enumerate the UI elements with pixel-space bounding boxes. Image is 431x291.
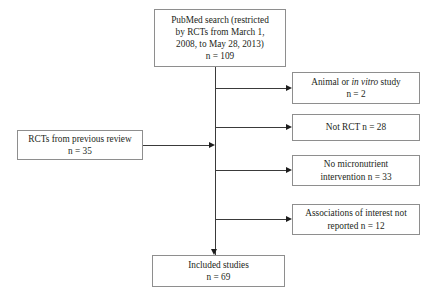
pubmed-search-line-1: PubMed search (restricted	[171, 14, 269, 26]
branch-line-associations-not-reported	[215, 219, 286, 220]
merge-line-previous-review	[143, 145, 209, 146]
branch-line-not-rct	[215, 127, 286, 128]
spine-vertical-line	[215, 67, 216, 255]
pubmed-search-count: n = 109	[206, 50, 235, 62]
no-micronutrient-line-2: intervention n = 33	[320, 171, 391, 183]
previous-review-line-1: RCTs from previous review	[28, 133, 131, 145]
box-included-studies: Included studies n = 69	[152, 255, 285, 287]
not-rct-line-1: Not RCT n = 28	[326, 121, 386, 133]
arrowhead-previous-review-merge	[209, 142, 215, 148]
previous-review-count: n = 35	[68, 145, 92, 157]
box-not-rct: Not RCT n = 28	[292, 114, 420, 141]
animal-in-vitro-line-1: Animal or in vitro study	[311, 76, 401, 88]
box-pubmed-search: PubMed search (restricted by RCTs from M…	[154, 9, 286, 67]
animal-in-vitro-text-italic: in vitro	[352, 77, 379, 87]
animal-in-vitro-text-pre: Animal or	[311, 77, 351, 87]
flowchart-canvas: PubMed search (restricted by RCTs from M…	[0, 0, 431, 291]
animal-in-vitro-text-post: study	[378, 77, 400, 87]
associations-not-reported-line-1: Associations of interest not	[305, 207, 406, 219]
branch-line-no-micronutrient	[215, 170, 286, 171]
pubmed-search-line-3: 2008, to May 28, 2013)	[176, 38, 264, 50]
animal-in-vitro-count: n = 2	[346, 88, 365, 100]
box-animal-in-vitro: Animal or in vitro study n = 2	[292, 72, 420, 104]
included-studies-line-1: Included studies	[188, 259, 249, 271]
no-micronutrient-line-1: No micronutrient	[324, 158, 388, 170]
pubmed-search-line-2: by RCTs from March 1,	[176, 26, 265, 38]
box-associations-not-reported: Associations of interest not reported n …	[292, 204, 420, 235]
box-rcts-previous-review: RCTs from previous review n = 35	[17, 130, 143, 160]
branch-line-animal-in-vitro	[215, 88, 286, 89]
associations-not-reported-line-2: reported n = 12	[327, 220, 384, 232]
included-studies-count: n = 69	[207, 271, 231, 283]
box-no-micronutrient-intervention: No micronutrient intervention n = 33	[292, 155, 420, 186]
